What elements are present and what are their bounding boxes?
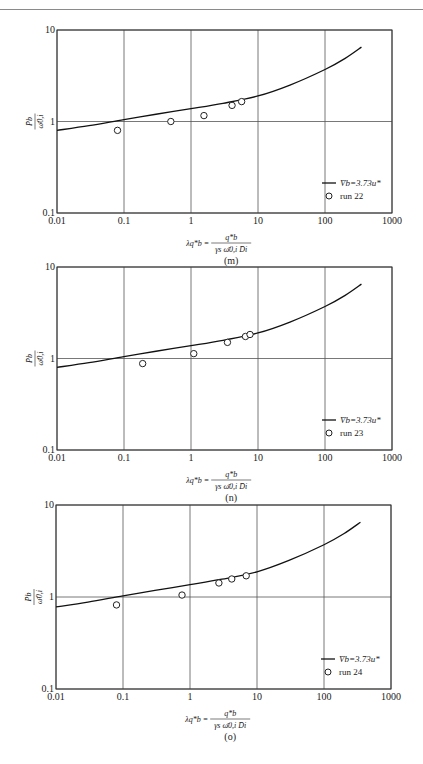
legend: V̄b=3.73u*run 24 <box>321 654 380 677</box>
svg-text:ω̄0,i: ω̄0,i <box>35 590 44 604</box>
data-point <box>229 576 235 582</box>
chart-caption: (o) <box>224 731 236 743</box>
x-tick-label: 1 <box>188 691 193 702</box>
legend-marker-swatch <box>325 669 331 675</box>
legend-label-run: run 24 <box>339 667 363 677</box>
svg-text:λq*b =: λq*b = <box>184 715 208 724</box>
data-point <box>216 580 222 586</box>
data-point <box>179 592 185 598</box>
model-curve <box>56 522 360 607</box>
x-tick-label: 1000 <box>381 691 401 702</box>
data-point <box>243 573 249 579</box>
svg-text:γs ω̄0,i D̄i: γs ω̄0,i D̄i <box>214 721 246 730</box>
legend-label-model: V̄b=3.73u* <box>339 654 380 664</box>
y-tick-label: 1 <box>49 591 54 602</box>
plot-area: 0.010.111010010000.1110P̄bω̄0,iλq*b =q*b… <box>24 499 401 743</box>
x-tick-label: 100 <box>317 691 332 702</box>
svg-text:P̄b: P̄b <box>24 593 33 603</box>
svg-text:q*b: q*b <box>224 709 236 718</box>
y-tick-label: 10 <box>44 499 54 510</box>
x-tick-label: 0.1 <box>117 691 130 702</box>
y-tick-label: 0.1 <box>42 683 55 694</box>
y-axis-label: P̄bω̄0,i <box>24 589 44 605</box>
data-point <box>113 602 119 608</box>
x-tick-label: 10 <box>252 691 262 702</box>
x-axis-label: λq*b =q*bγs ω̄0,i D̄i <box>184 709 250 730</box>
chart-o: 0.010.111010010000.1110P̄bω̄0,iλq*b =q*b… <box>0 0 423 764</box>
